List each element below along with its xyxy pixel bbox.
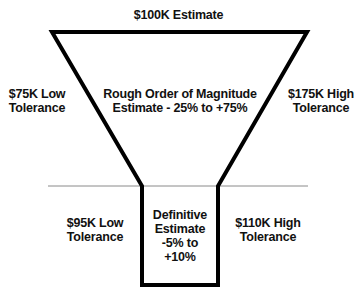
definitive-high-caption: Tolerance <box>228 230 308 244</box>
definitive-high-tolerance-label: $110K High Tolerance <box>228 216 308 244</box>
definitive-low-tolerance-label: $95K Low Tolerance <box>60 216 130 244</box>
definitive-title-2: Estimate <box>144 222 216 236</box>
rom-high-value: $175K High <box>287 87 355 101</box>
rom-range: Estimate - 25% to +75% <box>100 101 260 115</box>
top-estimate-text: $100K Estimate <box>0 8 357 22</box>
rom-high-caption: Tolerance <box>287 101 355 115</box>
rom-high-tolerance-label: $175K High Tolerance <box>287 87 355 115</box>
definitive-low-caption: Tolerance <box>60 230 130 244</box>
definitive-range-1: -5% to <box>144 236 216 250</box>
rom-low-caption: Tolerance <box>4 101 70 115</box>
definitive-title-1: Definitive <box>144 208 216 222</box>
definitive-high-value: $110K High <box>228 216 308 230</box>
rom-low-tolerance-label: $75K Low Tolerance <box>4 87 70 115</box>
definitive-range-2: +10% <box>144 250 216 264</box>
definitive-low-value: $95K Low <box>60 216 130 230</box>
rom-title: Rough Order of Magnitude <box>100 87 260 101</box>
rom-low-value: $75K Low <box>4 87 70 101</box>
rom-center-label: Rough Order of Magnitude Estimate - 25% … <box>100 87 260 115</box>
definitive-center-label: Definitive Estimate -5% to +10% <box>144 208 216 264</box>
top-estimate-label: $100K Estimate <box>0 8 357 22</box>
